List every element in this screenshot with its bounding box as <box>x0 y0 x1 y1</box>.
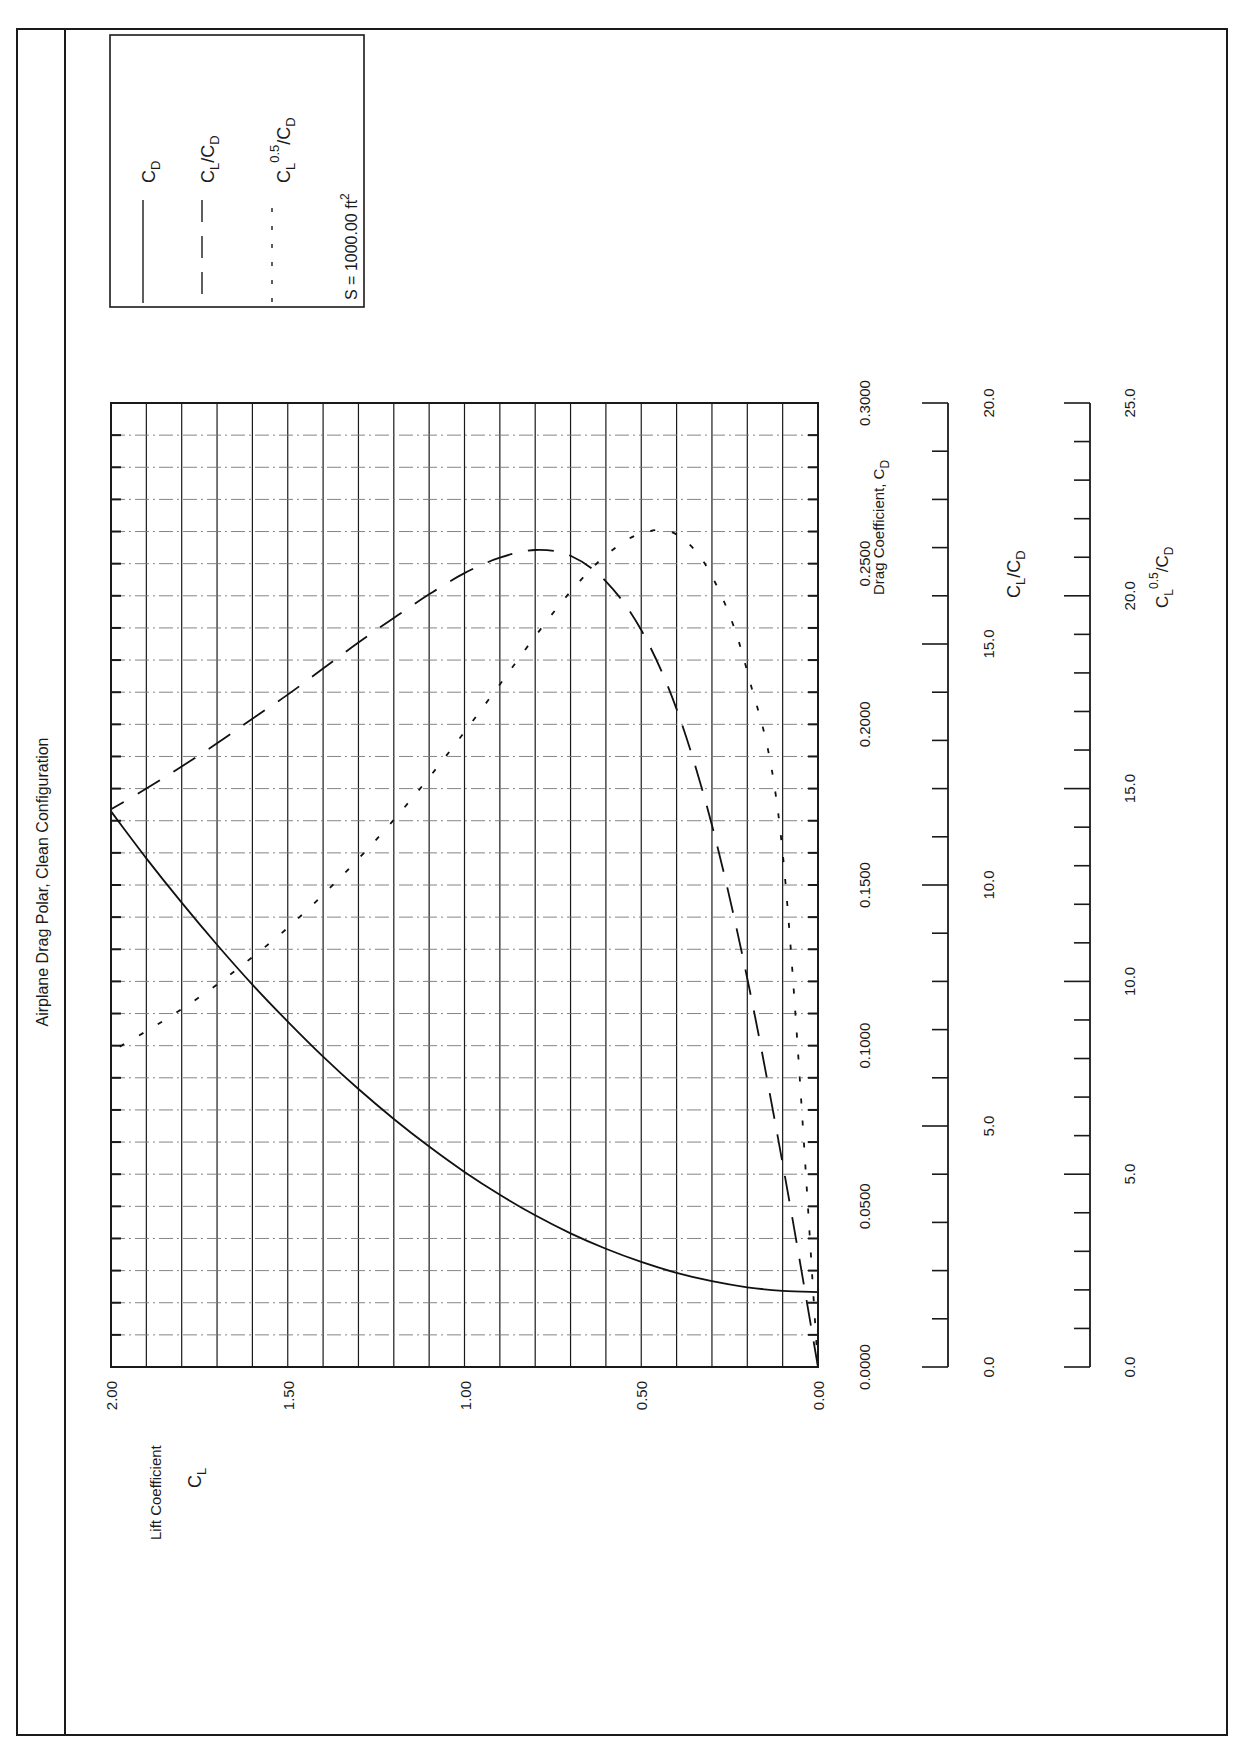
secondary-tick-label: 5.0 <box>980 1116 997 1137</box>
secondary-tick-label: 20.0 <box>1121 581 1138 610</box>
legend-label-ld: CL/CD <box>198 135 222 183</box>
cd-tick-label: 0.0000 <box>856 1344 873 1390</box>
drag-polar-chart: Airplane Drag Polar, Clean Configuration… <box>0 0 1244 1750</box>
lift-coefficient-symbol: CL <box>185 1468 209 1488</box>
cl-tick-label: 1.00 <box>457 1381 474 1410</box>
secondary-tick-label: 15.0 <box>980 629 997 658</box>
secondary-tick-label: 0.0 <box>1121 1357 1138 1378</box>
endurance-parameter-title: CL0.5/CD <box>1147 546 1176 608</box>
secondary-tick-label: 0.0 <box>980 1357 997 1378</box>
lift-coefficient-title: Lift Coefficient <box>147 1444 164 1540</box>
lift-coefficient-axis: 2.001.501.000.500.00 <box>103 1381 827 1410</box>
legend: CD CL/CD CL0.5/CD S = 1000.00 ft2 <box>110 35 364 307</box>
legend-area-note: S = 1000.00 ft2 <box>338 193 360 300</box>
secondary-tick-label: 20.0 <box>980 388 997 417</box>
plot-grid <box>111 403 818 1367</box>
secondary-tick-label: 25.0 <box>1121 388 1138 417</box>
cl-tick-label: 2.00 <box>103 1381 120 1410</box>
secondary-tick-label: 10.0 <box>980 870 997 899</box>
cd-tick-label: 0.3000 <box>856 380 873 426</box>
endurance-parameter-axis: 0.05.010.015.020.025.0 <box>1064 388 1138 1377</box>
secondary-tick-label: 10.0 <box>1121 967 1138 996</box>
cd-tick-label: 0.1500 <box>856 862 873 908</box>
secondary-tick-label: 15.0 <box>1121 774 1138 803</box>
chart-title: Airplane Drag Polar, Clean Configuration <box>34 737 51 1026</box>
legend-label-cd: CD <box>139 161 163 183</box>
cd-tick-label: 0.2000 <box>856 701 873 747</box>
lift-to-drag-axis: 0.05.010.015.020.0 <box>922 388 997 1377</box>
lift-to-drag-title: CL/CD <box>1004 550 1028 598</box>
cd-tick-label: 0.0500 <box>856 1183 873 1229</box>
cl-tick-label: 1.50 <box>280 1381 297 1410</box>
cl-tick-label: 0.00 <box>810 1381 827 1410</box>
legend-label-eff: CL0.5/CD <box>267 117 298 183</box>
cl-tick-label: 0.50 <box>633 1381 650 1410</box>
cd-tick-label: 0.1000 <box>856 1023 873 1069</box>
drag-coefficient-title: Drag Coefficient, CD <box>870 460 892 595</box>
secondary-tick-label: 5.0 <box>1121 1164 1138 1185</box>
